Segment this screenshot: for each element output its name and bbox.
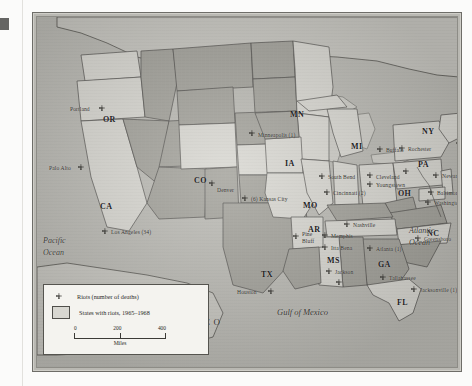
riot-marker: [249, 130, 255, 136]
state-abbreviation-label: MI: [351, 142, 362, 151]
state-abbreviation-label: MN: [290, 110, 304, 119]
city-label: Houston: [237, 289, 257, 295]
riot-marker: [209, 180, 215, 186]
state-idaho: [141, 49, 177, 121]
state-abbreviation-label: CA: [100, 202, 112, 211]
state-colorado: [179, 123, 237, 169]
city-label: Jacksonville (1): [420, 287, 457, 293]
riot-marker: [425, 199, 431, 205]
city-label: Buffalo: [386, 147, 404, 153]
legend-row-states: States with riots, 1965–1968: [52, 306, 200, 319]
state-abbreviation-label: PA: [418, 160, 429, 169]
scale-unit-label: Miles: [74, 340, 166, 346]
riot-marker: [242, 195, 248, 201]
city-label: Youngstown: [376, 182, 405, 188]
riot-marker: [344, 221, 350, 227]
riot-marker: [322, 244, 328, 250]
state-northdakota: [251, 41, 295, 79]
legend-states-label: States with riots, 1965–1968: [79, 309, 150, 316]
riot-marker: [403, 168, 409, 174]
riot-marker: [322, 232, 328, 238]
state-abbreviation-label: OH: [398, 189, 411, 198]
riot-marker: [433, 172, 439, 178]
riot-marker: [367, 245, 373, 251]
riot-marker: [268, 288, 274, 294]
state-montana: [173, 43, 253, 91]
riot-marker: [319, 173, 325, 179]
map-figure-frame: ORCACOMNIAMOMIOHPANYNCTXARMSGAFLPortland…: [32, 12, 462, 372]
scale-bar: 0 200 400 Miles: [74, 325, 166, 346]
scale-bar-line: [74, 332, 166, 339]
figure-page: ORCACOMNIAMOMIOHPANYNCTXARMSGAFLPortland…: [0, 0, 472, 386]
riot-marker: [78, 164, 84, 170]
riot-marker: [326, 268, 332, 274]
riot-marker-icon: [52, 292, 68, 300]
map-canvas: ORCACOMNIAMOMIOHPANYNCTXARMSGAFLPortland…: [36, 16, 458, 368]
state-indiana: [333, 161, 359, 205]
riot-marker: [380, 274, 386, 280]
city-label: Nashville: [353, 222, 375, 228]
state-abbreviation-label: FL: [397, 298, 408, 307]
riot-marker: [377, 146, 383, 152]
legend-riots-label: Riots (number of deaths): [77, 293, 139, 300]
city-label: Tallahassee: [389, 275, 416, 281]
riot-marker: [99, 105, 105, 111]
riot-marker: [428, 189, 434, 195]
city-label: Rochester: [408, 146, 431, 152]
city-label: South Bend: [328, 174, 355, 180]
riot-marker: [324, 189, 330, 195]
scale-tick-labels: 0 200 400: [74, 325, 166, 331]
state-abbreviation-label: GA: [378, 260, 391, 269]
state-abbreviation-label: TX: [261, 270, 273, 279]
atlantic-ocean-label: Atlantic Ocean: [409, 225, 434, 248]
city-label: Los Angeles (34): [111, 229, 151, 235]
city-label: Newark (26): [442, 173, 458, 179]
city-label: (6) Kansas City: [251, 196, 288, 202]
city-label: Palo Alto: [49, 165, 71, 171]
scale-tick-200: 200: [113, 325, 121, 331]
city-label: Itta Bena: [331, 245, 352, 251]
riot-marker: [367, 181, 373, 187]
state-washington: [81, 51, 141, 81]
city-label: Jackson: [335, 269, 353, 275]
state-abbreviation-label: MO: [303, 201, 318, 210]
page-edge-line: [22, 0, 23, 386]
state-iowa: [265, 137, 303, 173]
city-label: Minneapolis (1): [258, 132, 295, 138]
city-label: Denver: [217, 187, 234, 193]
legend-row-riots: Riots (number of deaths): [52, 292, 200, 300]
city-label: Memphis: [331, 233, 353, 239]
state-abbreviation-label: IA: [285, 159, 295, 168]
riot-marker: [293, 233, 299, 239]
city-label: Cincinnati (2): [333, 190, 366, 196]
riot-marker: [336, 279, 342, 285]
scale-tick-400: 400: [158, 325, 166, 331]
state-southdakota: [253, 77, 297, 113]
city-label: Pine: [302, 231, 312, 237]
state-kentucky: [327, 203, 393, 221]
state-wyoming: [177, 87, 235, 125]
riot-state-swatch-icon: [52, 306, 70, 319]
state-louisiana: [283, 247, 321, 289]
state-abbreviation-label: MS: [327, 256, 340, 265]
gulf-of-mexico-label: Gulf of Mexico: [277, 307, 328, 317]
city-label: Atlanta (1): [376, 246, 402, 252]
state-abbreviation-label: CO: [194, 176, 207, 185]
riot-marker: [367, 172, 373, 178]
state-abbreviation-label: OR: [103, 115, 116, 124]
riot-marker: [102, 228, 108, 234]
riot-marker: [411, 286, 417, 292]
state-abbreviation-label: NY: [422, 127, 434, 136]
city-label: Portland: [70, 106, 90, 112]
city-label: Washington DC (10): [434, 200, 458, 206]
map-legend: Riots (number of deaths) States with rio…: [43, 284, 209, 355]
scan-artifact: [0, 18, 9, 30]
pacific-ocean-label: Pacific Ocean: [43, 235, 66, 258]
city-label: Bluff: [302, 238, 314, 244]
scale-tick-0: 0: [74, 325, 77, 331]
city-label: Cleveland: [376, 174, 400, 180]
city-label: Baltimore (6): [437, 190, 458, 196]
riot-marker: [456, 140, 458, 146]
